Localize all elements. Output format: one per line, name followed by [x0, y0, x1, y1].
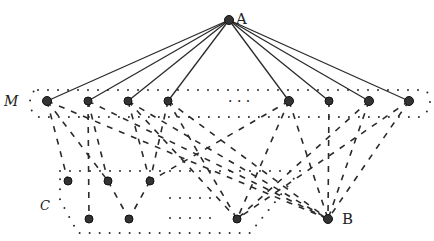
c-node [104, 177, 112, 185]
m-node [325, 97, 333, 105]
c-node [85, 215, 93, 223]
m-node [43, 97, 52, 106]
label-b: B [342, 210, 353, 228]
m-node [164, 97, 172, 105]
graph-diagram: · · · [0, 0, 434, 241]
label-c: C [40, 198, 50, 213]
c-nodes [64, 177, 241, 223]
m-node [405, 97, 414, 106]
node-a [225, 16, 234, 25]
label-m: M [3, 93, 19, 109]
c-node [146, 177, 154, 185]
m-node [84, 97, 92, 105]
label-a: A [235, 10, 247, 28]
m-node [124, 97, 132, 105]
set-c-boundary [60, 171, 300, 233]
c-node [233, 215, 241, 223]
m-node [365, 97, 374, 106]
edges-a-to-m [47, 20, 409, 101]
c-node [64, 177, 72, 185]
m-node [285, 97, 294, 106]
c-node [125, 215, 133, 223]
node-b [324, 215, 333, 224]
m-row-ellipsis: · · · [228, 93, 250, 109]
edges-m-to-c-and-b [47, 101, 409, 219]
